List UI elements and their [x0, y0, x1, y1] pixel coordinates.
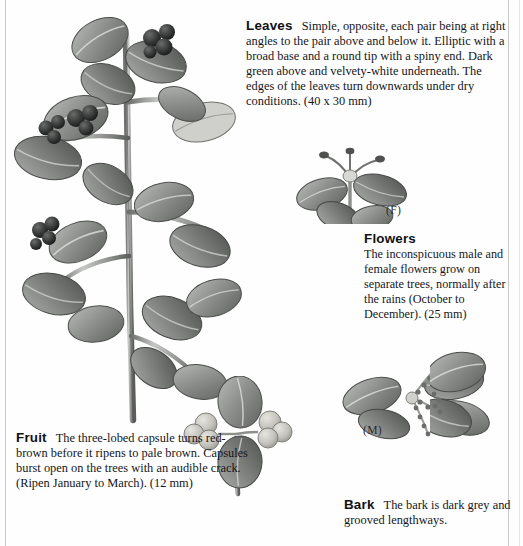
fruit-section: FruitThe three-lobed capsule turns red-b…	[16, 430, 248, 491]
figure-label-male: (M)	[363, 424, 382, 437]
leafy-branch-with-fruit-illustration	[4, 6, 254, 426]
leaves-section: LeavesSimple, opposite, each pair being …	[246, 18, 508, 110]
figure-label-female: (F)	[386, 204, 401, 217]
field-guide-page: (F)	[0, 0, 523, 546]
flowers-heading: Flowers	[364, 231, 512, 246]
fruit-body: The three-lobed capsule turns red-brown …	[16, 431, 248, 490]
flowers-section: FlowersThe inconspicuous male and female…	[364, 231, 512, 323]
bark-heading: Bark	[344, 497, 375, 512]
fruit-heading: Fruit	[16, 430, 47, 445]
bark-section: BarkThe bark is dark grey and grooved le…	[344, 497, 516, 528]
bark-sprig-illustration	[430, 336, 508, 486]
leaves-heading: Leaves	[246, 18, 293, 33]
page-rule-right-outer	[519, 0, 520, 546]
flowers-body: The inconspicuous male and female flower…	[364, 247, 505, 321]
